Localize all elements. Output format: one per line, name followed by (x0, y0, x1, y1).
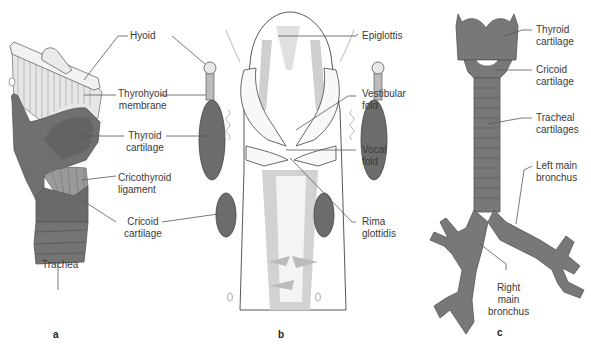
label-line-1: Left main (536, 160, 577, 172)
label-trachea: Trachea (42, 259, 78, 271)
label-vestibular-fold: Vestibular fold (362, 88, 406, 112)
label-hyoid: Hyoid (130, 30, 156, 42)
label-thyroid-cartilage-a: Thyroid cartilage (126, 130, 164, 154)
label-line-1: Cricoid (536, 64, 574, 76)
label-line-2: fold (362, 156, 386, 168)
label-line-3: bronchus (488, 306, 529, 318)
cricoid-cartilage-right-section (314, 193, 334, 237)
label-line-1: Right (488, 282, 529, 294)
thyroid-cartilage-anterior-shape (456, 14, 518, 60)
panel-letter-c: c (497, 327, 503, 338)
panel-letter-a: a (53, 329, 59, 340)
label-line-2: cartilage (124, 228, 162, 240)
label-line-2: main (488, 294, 529, 306)
label-right-main-bronchus: Right main bronchus (488, 282, 529, 318)
label-line-1: Thyroid (126, 130, 164, 142)
label-line-1: Rima (362, 216, 396, 228)
label-epiglottis: Epiglottis (362, 30, 403, 42)
label-line-2: membrane (118, 100, 167, 112)
cricoid-cartilage-left-section (216, 193, 236, 237)
label-line-1: Thyrohyoid (118, 88, 167, 100)
label-rima-glottidis: Rima glottidis (362, 216, 396, 240)
label-vocal-fold: Vocal fold (362, 144, 386, 168)
label-line-2: ligament (118, 184, 171, 196)
label-trachea-text: Trachea (42, 259, 78, 271)
label-line-1: Tracheal (536, 112, 579, 124)
label-line-2: glottidis (362, 228, 396, 240)
label-thyroid-cartilage-c: Thyroid cartilage (536, 24, 574, 48)
label-line-2: bronchus (536, 172, 577, 184)
label-cricoid-cartilage-a: Cricoid cartilage (124, 216, 162, 240)
label-line-2: fold (362, 100, 406, 112)
panel-letter-b: b (278, 329, 284, 340)
label-hyoid-text: Hyoid (130, 30, 156, 42)
label-line-2: cartilage (536, 36, 574, 48)
label-cricoid-cartilage-c: Cricoid cartilage (536, 64, 574, 88)
right-main-bronchus-shape (430, 210, 488, 334)
label-line-1: Thyroid (536, 24, 574, 36)
label-epiglottis-text: Epiglottis (362, 30, 403, 42)
label-line-1: Vestibular (362, 88, 406, 100)
label-line-1: Cricoid (124, 216, 162, 228)
label-line-2: cartilage (536, 76, 574, 88)
label-thyrohyoid-membrane: Thyrohyoid membrane (118, 88, 167, 112)
label-line-2: cartilages (536, 124, 579, 136)
label-line-2: cartilage (126, 142, 164, 154)
label-line-1: Cricothyroid (118, 172, 171, 184)
label-left-main-bronchus: Left main bronchus (536, 160, 577, 184)
thyroid-cartilage-left-section (199, 100, 225, 180)
label-cricothyroid-ligament: Cricothyroid ligament (118, 172, 171, 196)
thyroid-cartilage-right-section (361, 100, 387, 180)
label-line-1: Vocal (362, 144, 386, 156)
label-tracheal-cartilages: Tracheal cartilages (536, 112, 579, 136)
